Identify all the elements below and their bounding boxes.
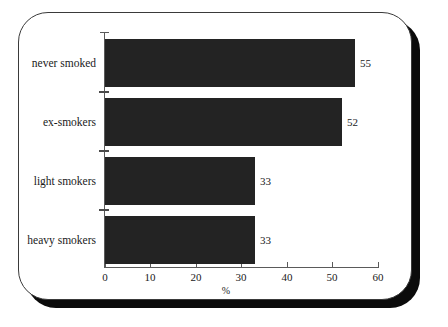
category-label-light-smokers: light smokers [0,175,96,188]
x-axis-tick-label-50: 50 [317,271,347,283]
category-label-never-smoked: never smoked [0,57,96,70]
bar-value-light-smokers: 33 [260,175,271,187]
bar-value-ex-smokers: 52 [347,116,358,128]
x-axis-tick-label-60: 60 [363,271,393,283]
y-axis-top-cap [100,32,109,33]
plot-area: 0 10 20 30 40 50 60 % 55 never smoked 52… [0,0,448,327]
bar-heavy-smokers[interactable] [105,216,255,264]
x-axis-tick-60 [378,262,379,268]
bar-value-never-smoked: 55 [360,57,371,69]
bar-value-heavy-smokers: 33 [260,234,271,246]
y-axis-tick [99,209,109,211]
figure: 0 10 20 30 40 50 60 % 55 never smoked 52… [0,0,448,327]
x-axis-tick-label-20: 20 [181,271,211,283]
x-axis-tick-label-10: 10 [135,271,165,283]
bar-never-smoked[interactable] [105,39,355,87]
x-axis-tick-label-0: 0 [90,271,120,283]
category-label-heavy-smokers: heavy smokers [0,234,96,247]
bar-ex-smokers[interactable] [105,98,342,146]
bar-light-smokers[interactable] [105,157,255,205]
x-axis-tick-label-40: 40 [272,271,302,283]
y-axis-tick [99,91,109,93]
x-axis-title: % [211,285,241,296]
x-axis-tick-label-30: 30 [226,271,256,283]
x-axis-tick-40 [287,262,288,268]
x-axis-tick-50 [332,262,333,268]
y-axis-tick [99,150,109,152]
category-label-ex-smokers: ex-smokers [0,116,96,129]
